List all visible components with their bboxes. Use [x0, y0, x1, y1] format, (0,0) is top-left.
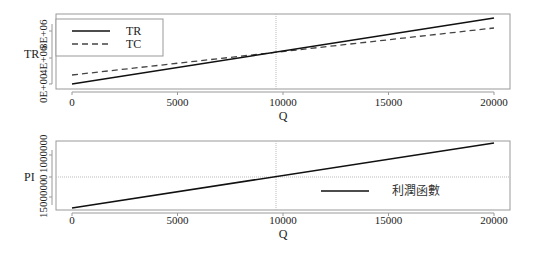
bottom-xtick-label-2: 10000 — [269, 214, 297, 226]
top-x-axis-label: Q — [279, 109, 288, 123]
legend-tr-label: TR — [126, 24, 141, 38]
top-panel: TR TC 0E+00 4E+06 8E+06 TR 0 5000 10000 … — [24, 14, 510, 123]
legend-tc-label: TC — [126, 37, 141, 51]
top-xtick-label-4: 20000 — [480, 96, 508, 108]
bottom-xtick-label-3: 15000 — [375, 214, 403, 226]
bottom-ytick-label-2: 1000000 — [37, 134, 49, 173]
figure: TR TC 0E+00 4E+06 8E+06 TR 0 5000 10000 … — [0, 0, 537, 256]
bottom-x-axis-label: Q — [279, 227, 288, 241]
series-profit — [72, 143, 494, 208]
bottom-xtick-label-1: 5000 — [167, 214, 190, 226]
bottom-panel: 利潤函數 1500000 0 1000000 PI 0 5000 10000 1… — [24, 134, 510, 241]
top-xtick-label-0: 0 — [69, 96, 75, 108]
top-xtick-label-2: 10000 — [269, 96, 297, 108]
bottom-ytick-label-1: 0 — [37, 174, 49, 180]
top-ytick-label-0: 0E+00 — [37, 73, 49, 103]
top-xtick-label-1: 5000 — [167, 96, 190, 108]
bottom-xtick-label-0: 0 — [69, 214, 75, 226]
top-xtick-label-3: 15000 — [375, 96, 403, 108]
bottom-xtick-label-4: 20000 — [480, 214, 508, 226]
top-legend-box — [56, 19, 163, 56]
legend-profit-label: 利潤函數 — [392, 184, 440, 198]
bottom-y-axis-label: PI — [24, 170, 35, 184]
top-y-axis-label: TR — [24, 47, 39, 61]
bottom-ytick-label-0: 1500000 — [37, 179, 49, 218]
top-ytick-label-2: 8E+06 — [37, 19, 49, 49]
